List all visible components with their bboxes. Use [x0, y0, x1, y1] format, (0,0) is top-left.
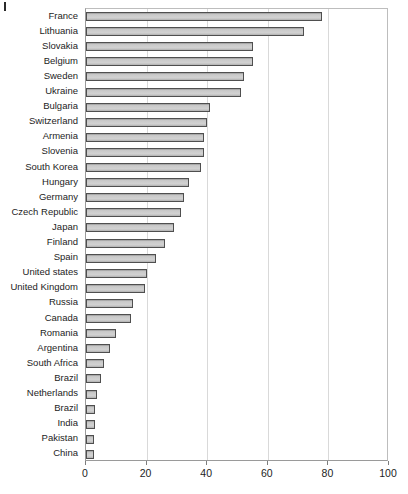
- bar-row: [86, 69, 387, 84]
- bar: [86, 374, 101, 383]
- bar-row: [86, 281, 387, 296]
- x-tick-40: [206, 461, 207, 465]
- bar-row: [86, 387, 387, 402]
- bar-row: [86, 356, 387, 371]
- bar-row: [86, 296, 387, 311]
- bar: [86, 390, 97, 399]
- y-axis-label: Netherlands: [27, 388, 78, 398]
- bar: [86, 163, 201, 172]
- y-axis-label: Sweden: [44, 71, 78, 81]
- bar-chart-figure: FranceLithuaniaSlovakiaBelgiumSwedenUkra…: [0, 0, 408, 494]
- y-axis-label: Slovenia: [42, 146, 78, 156]
- bar: [86, 329, 116, 338]
- y-axis-label: Spain: [54, 252, 78, 262]
- y-axis-label: Slovakia: [42, 41, 78, 51]
- y-axis-label: China: [53, 448, 78, 458]
- bar-row: [86, 236, 387, 251]
- bar: [86, 27, 304, 36]
- bar-row: [86, 175, 387, 190]
- plot-area: [85, 8, 388, 461]
- bar-row: [86, 54, 387, 69]
- bar-row: [86, 251, 387, 266]
- bar: [86, 435, 94, 444]
- y-axis-label: Ukraine: [45, 86, 78, 96]
- bar-row: [86, 85, 387, 100]
- bar: [86, 118, 207, 127]
- y-axis-label: Argentina: [37, 343, 78, 353]
- bar: [86, 254, 156, 263]
- y-axis-label: South Africa: [27, 358, 78, 368]
- bar-row: [86, 115, 387, 130]
- y-axis-label: Finland: [47, 237, 78, 247]
- bar-row: [86, 447, 387, 462]
- bar: [86, 42, 253, 51]
- bar-row: [86, 130, 387, 145]
- bar-row: [86, 100, 387, 115]
- bar: [86, 148, 204, 157]
- x-tick-label: 40: [200, 467, 212, 479]
- y-axis-label: South Korea: [25, 162, 78, 172]
- y-axis-label: Armenia: [43, 131, 78, 141]
- bar-row: [86, 9, 387, 24]
- bar: [86, 178, 189, 187]
- x-tick-80: [327, 461, 328, 465]
- y-axis-label: Pakistan: [42, 433, 78, 443]
- bar: [86, 284, 145, 293]
- bar-row: [86, 205, 387, 220]
- y-axis-label: France: [48, 11, 78, 21]
- bar: [86, 269, 147, 278]
- bar-row: [86, 326, 387, 341]
- x-tick-100: [388, 461, 389, 465]
- bar-row: [86, 371, 387, 386]
- y-axis-label: Belgium: [44, 56, 78, 66]
- y-axis-label: United states: [23, 267, 78, 277]
- x-tick-label: 80: [322, 467, 334, 479]
- bar: [86, 299, 133, 308]
- bar: [86, 208, 181, 217]
- bar-row: [86, 190, 387, 205]
- bar-row: [86, 266, 387, 281]
- x-tick-label: 20: [140, 467, 152, 479]
- bar: [86, 12, 322, 21]
- bar: [86, 57, 253, 66]
- x-tick-60: [267, 461, 268, 465]
- bar-rows: [86, 9, 387, 460]
- bar: [86, 314, 131, 323]
- x-tick-label: 100: [379, 467, 397, 479]
- bar-row: [86, 145, 387, 160]
- bar-row: [86, 160, 387, 175]
- bar-row: [86, 24, 387, 39]
- bar: [86, 193, 184, 202]
- bar: [86, 450, 94, 459]
- y-axis-label: Canada: [45, 313, 78, 323]
- x-tick-label: 60: [261, 467, 273, 479]
- x-tick-20: [146, 461, 147, 465]
- bar-row: [86, 432, 387, 447]
- bar-row: [86, 220, 387, 235]
- y-axis-label: United Kingdom: [10, 282, 78, 292]
- bar: [86, 239, 165, 248]
- bar-row: [86, 311, 387, 326]
- y-axis-label: Japan: [52, 222, 78, 232]
- y-axis-label: Russia: [49, 297, 78, 307]
- y-axis-label: Brazil: [54, 403, 78, 413]
- x-tick-0: [85, 461, 86, 465]
- y-axis-label: Lithuania: [39, 26, 78, 36]
- bar-row: [86, 341, 387, 356]
- y-axis-label: Bulgaria: [43, 101, 78, 111]
- bar: [86, 103, 210, 112]
- bar: [86, 359, 104, 368]
- y-axis-label: Germany: [39, 192, 78, 202]
- bar: [86, 88, 241, 97]
- bar: [86, 344, 110, 353]
- y-axis-label: Czech Republic: [11, 207, 78, 217]
- bar: [86, 405, 95, 414]
- y-axis-label: Brazil: [54, 373, 78, 383]
- y-axis-label: India: [57, 418, 78, 428]
- y-axis-label: Switzerland: [29, 116, 78, 126]
- bar-row: [86, 39, 387, 54]
- x-axis: 020406080100: [0, 461, 408, 494]
- bar: [86, 223, 174, 232]
- bar-row: [86, 417, 387, 432]
- bar: [86, 133, 204, 142]
